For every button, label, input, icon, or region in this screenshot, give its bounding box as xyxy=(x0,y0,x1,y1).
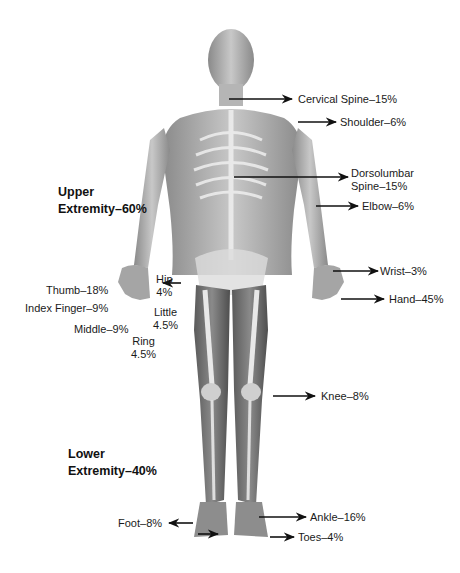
label-index-finger: Index Finger–9% xyxy=(25,302,108,315)
label-hand: Hand–45% xyxy=(389,293,443,306)
label-wrist: Wrist–3% xyxy=(380,265,427,278)
label-ring-finger: Ring 4.5% xyxy=(131,335,156,361)
label-hip: Hip 4% xyxy=(156,273,173,299)
legs xyxy=(194,285,268,537)
label-foot: Foot–8% xyxy=(118,517,162,530)
label-toes: Toes–4% xyxy=(298,531,343,544)
label-knee: Knee–8% xyxy=(321,390,369,403)
label-ankle: Ankle–16% xyxy=(310,511,366,524)
label-shoulder: Shoulder–6% xyxy=(340,116,406,129)
label-little-finger: Little 4.5% xyxy=(153,306,178,332)
label-dorsolumbar-spine: Dorsolumbar Spine–15% xyxy=(351,167,414,193)
label-elbow: Elbow–6% xyxy=(362,200,414,213)
head xyxy=(208,29,254,106)
label-thumb: Thumb–18% xyxy=(46,284,108,297)
label-cervical-spine: Cervical Spine–15% xyxy=(298,93,397,106)
region-lower-extremity: Lower Extremity–40% xyxy=(68,446,157,480)
label-middle-finger: Middle–9% xyxy=(74,323,128,336)
region-upper-extremity: Upper Extremity–60% xyxy=(58,184,147,218)
